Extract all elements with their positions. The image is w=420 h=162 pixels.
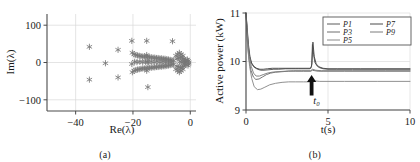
panel-b-x-axis-label: t(s): [321, 123, 336, 136]
legend-box: [323, 17, 411, 45]
svg-text:100: 100: [25, 20, 41, 31]
panel-a-eigenvalue-plot: −40−200−1000100 Re(λ) Im(λ) (a): [0, 0, 210, 162]
svg-text:−100: −100: [19, 95, 41, 106]
panel-a-tick-labels: −40−200−1000100: [19, 20, 193, 128]
svg-text:P9: P9: [385, 28, 395, 37]
panel-a-caption: (a): [0, 149, 210, 160]
panel-b-active-power-plot: t₀ P1P3P5P7P9 051091011 t(s) Active powe…: [210, 0, 420, 162]
panel-a-scatter-points: [87, 38, 191, 90]
panel-a-y-axis-label: Im(λ): [4, 49, 17, 74]
svg-text:0: 0: [36, 57, 41, 68]
figure-container: −40−200−1000100 Re(λ) Im(λ) (a) t₀ P1P3P…: [0, 0, 420, 162]
panel-a-svg: −40−200−1000100 Re(λ) Im(λ): [0, 0, 210, 138]
svg-text:0: 0: [188, 117, 193, 128]
svg-text:11: 11: [230, 8, 240, 19]
svg-text:9: 9: [235, 105, 240, 116]
panel-b-caption: (b): [210, 149, 420, 160]
panel-b-legend: P1P3P5P7P9: [323, 17, 411, 45]
t0-arrow-icon: [307, 75, 316, 95]
t0-label: t₀: [313, 95, 320, 106]
svg-text:−40: −40: [67, 117, 83, 128]
panel-a-x-axis-label: Re(λ): [110, 123, 135, 136]
t0-arrow-annotation: t₀: [307, 75, 320, 106]
panel-a-tick-marks: [44, 25, 191, 114]
svg-text:0: 0: [243, 116, 248, 127]
svg-text:P5: P5: [342, 36, 352, 45]
svg-text:10: 10: [230, 56, 241, 67]
panel-b-svg: t₀ P1P3P5P7P9 051091011 t(s) Active powe…: [210, 0, 420, 138]
panel-b-y-axis-label: Active power (kW): [213, 18, 226, 104]
svg-text:10: 10: [405, 116, 416, 127]
